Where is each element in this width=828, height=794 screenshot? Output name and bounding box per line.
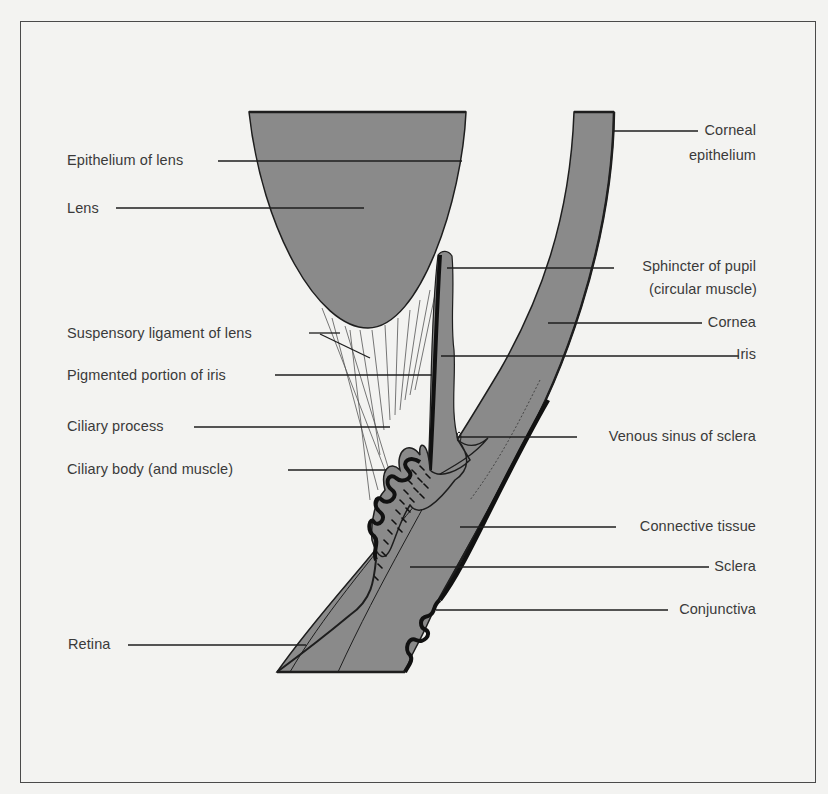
label-corneal-epithelium-line1: Corneal <box>705 122 756 139</box>
label-ciliary-process: Ciliary process <box>67 418 164 435</box>
label-corneal-epithelium-line2: epithelium <box>689 147 756 164</box>
label-lens: Lens <box>67 200 99 217</box>
label-sclera: Sclera <box>714 558 756 575</box>
label-ciliary-body: Ciliary body (and muscle) <box>67 461 233 478</box>
label-venous-sinus-of-sclera: Venous sinus of sclera <box>609 428 756 445</box>
lens-shape <box>249 112 466 328</box>
label-cornea: Cornea <box>708 314 756 331</box>
label-suspensory-ligament: Suspensory ligament of lens <box>67 325 252 342</box>
label-retina: Retina <box>68 636 111 653</box>
label-sphincter-of-pupil-line2: (circular muscle) <box>649 281 757 298</box>
label-epithelium-of-lens: Epithelium of lens <box>67 152 183 169</box>
label-connective-tissue: Connective tissue <box>640 518 756 535</box>
label-iris: Iris <box>736 346 756 363</box>
label-conjunctiva: Conjunctiva <box>679 601 756 618</box>
eye-diagram <box>0 0 828 794</box>
label-pigmented-iris: Pigmented portion of iris <box>67 367 226 384</box>
label-sphincter-of-pupil-line1: Sphincter of pupil <box>642 258 756 275</box>
